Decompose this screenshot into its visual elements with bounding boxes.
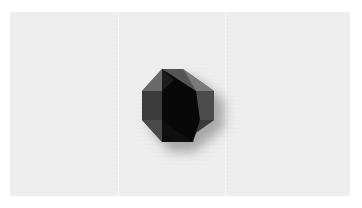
octagon-gem-icon — [0, 0, 362, 208]
